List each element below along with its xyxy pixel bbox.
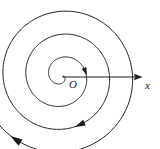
middle-spiral-direction-arrowhead-icon xyxy=(75,120,86,127)
origin-label: O xyxy=(69,79,77,90)
spiral-figure: O x xyxy=(0,0,160,149)
spiral-figure-svg xyxy=(0,0,160,149)
x-axis-label: x xyxy=(145,80,150,91)
inner-spiral-direction-arrowhead-icon xyxy=(82,67,87,76)
archimedean-spiral-curve xyxy=(0,11,133,149)
outer-spiral-direction-arrowhead-icon xyxy=(10,136,22,146)
